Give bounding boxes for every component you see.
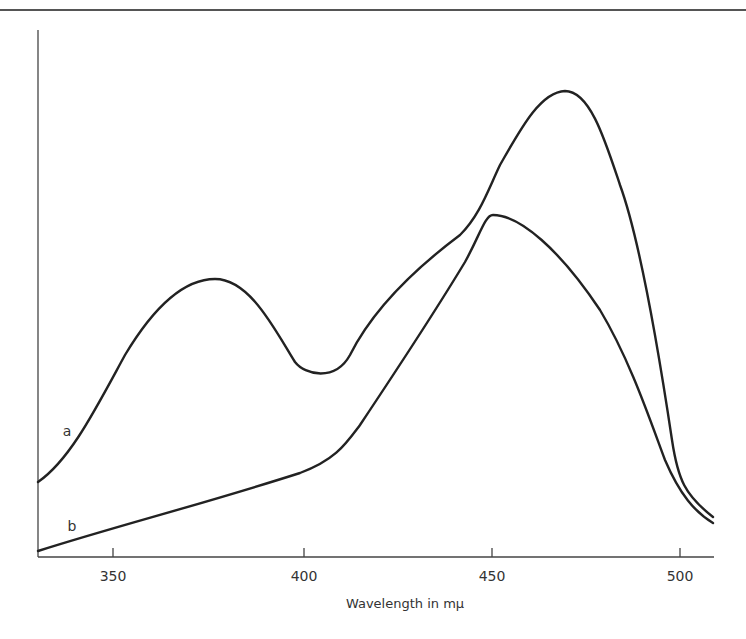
x-tick-label-350: 350 bbox=[100, 568, 127, 584]
curve-a bbox=[38, 91, 713, 517]
x-ticks bbox=[113, 548, 680, 557]
x-axis-title: Wavelength in mμ bbox=[346, 596, 464, 611]
absorption-spectrum-chart: 350 400 450 500 Wavelength in mμ a b bbox=[0, 0, 746, 639]
curve-a-label: a bbox=[63, 423, 72, 439]
x-tick-label-400: 400 bbox=[291, 568, 318, 584]
x-tick-label-450: 450 bbox=[479, 568, 506, 584]
x-tick-label-500: 500 bbox=[667, 568, 694, 584]
curve-b bbox=[38, 215, 713, 551]
curve-b-label: b bbox=[68, 518, 77, 534]
